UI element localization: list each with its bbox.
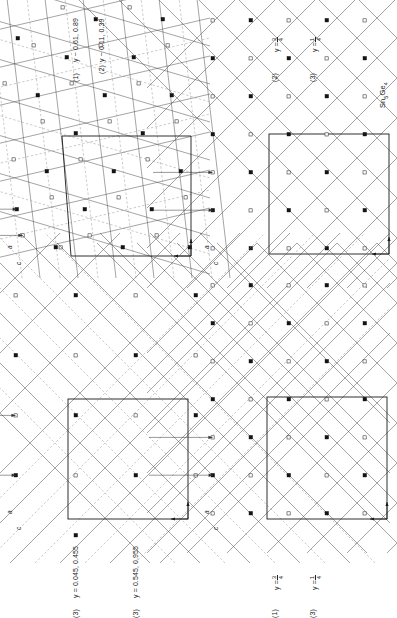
y-equals-prefix-4: y = <box>311 580 318 590</box>
annotation-site-1-label-br: (1) <box>271 609 278 618</box>
annotation-y-three-quarters-br: y =34 <box>271 575 284 590</box>
panel-bottom-right-drawing <box>197 268 397 533</box>
axis-cross <box>171 502 188 519</box>
atom-open-group <box>3 6 187 249</box>
fraction-three-quarters-br: 34 <box>271 575 284 580</box>
formula-subscript-1: 5 <box>383 95 389 98</box>
axis-label-c-top-left: c <box>15 262 22 265</box>
panel-bottom-left: (3) y = 0.045, 0.455 (3) y = 0.545, 0.95… <box>0 268 197 533</box>
annotation-site-3-label-br: (3) <box>309 609 316 618</box>
annotation-site-3-label-tr: (3) <box>309 73 316 82</box>
annotation-site-3-label-bl-2: (3) <box>132 609 139 618</box>
leader-arrowheads <box>208 436 212 477</box>
panel-bottom-left-drawing <box>0 268 197 533</box>
axis-label-a-top-left: a <box>6 245 13 249</box>
annotation-y-one-quarter: y =14 <box>309 37 322 52</box>
unit-cell-box <box>68 399 188 519</box>
annotation-y-061-089: y ~ 0.61, 0.89 <box>72 18 79 62</box>
annotation-site-2-label-tr: (2) <box>271 73 278 82</box>
leader-lines <box>0 415 16 475</box>
annotation-y-three-quarters: y =34 <box>271 37 284 52</box>
annotation-site-1-label: (1) <box>72 73 79 82</box>
formula-subscript-2: 4 <box>383 82 389 85</box>
axis-label-c-bottom-left: c <box>15 527 22 530</box>
fraction-one-quarter: 14 <box>309 37 322 42</box>
leader-arrowheads <box>208 171 212 212</box>
atom-filled-group <box>211 283 367 515</box>
fraction-one-quarter-br: 14 <box>309 575 322 580</box>
compound-formula-label: Sn5Ge4 <box>378 82 389 108</box>
axis-label-a-bottom-right: a <box>203 510 210 514</box>
leader-arrowheads <box>11 414 15 477</box>
annotation-y-0545-0955: y = 0.545, 0.955 <box>132 546 139 598</box>
annotation-site-2-label: (2) <box>98 65 105 74</box>
axis-label-c-bottom-right: c <box>212 527 219 530</box>
axis-cross <box>370 502 387 519</box>
atom-open-group <box>14 294 197 477</box>
formula-element-2: Ge <box>378 85 387 95</box>
axis-label-a-top-right: a <box>203 245 210 249</box>
y-equals-prefix-3: y = <box>273 580 280 590</box>
axis-arrowheads <box>372 237 391 256</box>
annotation-site-3-label-bl-1: (3) <box>72 609 79 618</box>
panel-top-right-drawing <box>197 0 397 268</box>
panel-top-right: (2) y =34 (3) y =14 Sn5Ge4 a c <box>197 0 397 268</box>
formula-element-1: Sn <box>378 99 387 108</box>
annotation-y-0045-0455: y = 0.045, 0.455 <box>72 546 79 598</box>
axis-label-a-bottom-left: a <box>6 510 13 514</box>
y-equals-prefix-2: y = <box>311 42 318 52</box>
panel-bottom-right: (1) y =34 (3) y =14 a c <box>197 268 397 533</box>
axis-arrowheads <box>370 502 389 521</box>
annotation-y-one-quarter-br: y =14 <box>309 575 322 590</box>
axis-label-c-top-right: c <box>212 262 219 265</box>
fraction-three-quarters: 34 <box>271 37 284 42</box>
leader-lines <box>0 209 23 235</box>
y-equals-prefix: y = <box>273 42 280 52</box>
